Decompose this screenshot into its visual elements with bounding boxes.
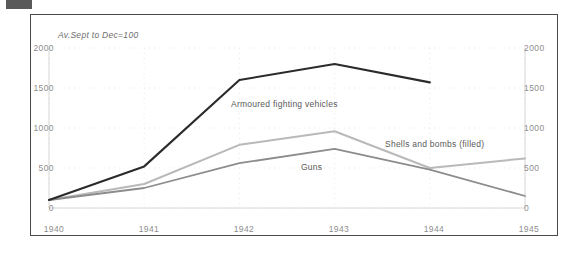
x-tick-1945: 1945 <box>505 224 553 234</box>
series-line <box>49 64 430 200</box>
series-label-guns: Guns <box>301 162 322 172</box>
y-right-tick-0: 0 <box>524 203 564 213</box>
screenshot-root: Av.Sept to Dec=100 2000 1500 1000 500 0 … <box>0 0 580 265</box>
x-tick-1944: 1944 <box>410 224 458 234</box>
line-chart-svg <box>31 15 559 237</box>
y-right-tick-1500: 1500 <box>524 83 564 93</box>
x-tick-1940: 1940 <box>30 224 78 234</box>
y-left-tick-2000: 2000 <box>14 43 54 53</box>
x-tick-1943: 1943 <box>315 224 363 234</box>
page-artifact <box>6 0 32 9</box>
y-left-tick-1000: 1000 <box>14 123 54 133</box>
chart-panel <box>30 14 558 236</box>
series-label-shells: Shells and bombs (filled) <box>385 139 484 149</box>
x-tick-1941: 1941 <box>125 224 173 234</box>
y-left-tick-500: 500 <box>14 163 54 173</box>
y-right-tick-500: 500 <box>524 163 564 173</box>
y-left-tick-0: 0 <box>14 203 54 213</box>
series-label-armoured: Armoured fighting vehicles <box>231 99 338 109</box>
y-left-tick-1500: 1500 <box>14 83 54 93</box>
y-right-tick-1000: 1000 <box>524 123 564 133</box>
plot-area <box>31 15 557 235</box>
x-tick-1942: 1942 <box>220 224 268 234</box>
index-note: Av.Sept to Dec=100 <box>58 30 138 40</box>
y-right-tick-2000: 2000 <box>524 43 564 53</box>
